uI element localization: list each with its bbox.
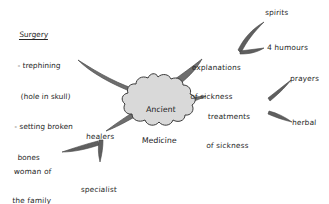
node-label-prayers: prayers [290, 74, 320, 84]
branch-label-healers: healers [86, 132, 115, 142]
branch-label-treatments: treatments of sickness [205, 93, 251, 170]
node-label-herbal: herbal [292, 118, 317, 128]
surgery-note-line-2: (hole in skull) [16, 92, 75, 102]
woman-of-the-family-line-1: woman of [14, 167, 53, 177]
central-node-line-2: Medicine [138, 136, 181, 146]
specialist-doctors-line-1: specialist [81, 185, 118, 195]
central-node-label: Ancient Medicine [137, 84, 183, 167]
node-label-four-humours: 4 humours [267, 43, 309, 53]
treatments-line-2: of sickness [206, 141, 249, 151]
node-label-woman-of-the-family: woman of the family [11, 148, 54, 204]
branch-stroke-four-humours [240, 48, 264, 54]
surgery-note-line-1: - trephining [17, 61, 76, 71]
node-label-specialist-doctors: specialist doctors [78, 166, 118, 204]
treatments-line-1: treatments [208, 112, 251, 122]
surgery-note-line-3: - setting broken [14, 122, 73, 132]
surgery-title: Surgery [19, 30, 78, 40]
branch-stroke-herbal [268, 111, 292, 122]
node-label-spirits: spirits [265, 8, 289, 18]
mind-map-canvas: Surgery - trephining (hole in skull) - s… [0, 0, 329, 204]
branch-stroke-prayers [268, 80, 291, 101]
branch-stroke-specialist-doctors [98, 140, 103, 162]
central-node-line-1: Ancient [140, 105, 183, 115]
woman-of-the-family-line-2: the family [12, 196, 51, 204]
explanations-line-1: explanations [192, 63, 242, 73]
